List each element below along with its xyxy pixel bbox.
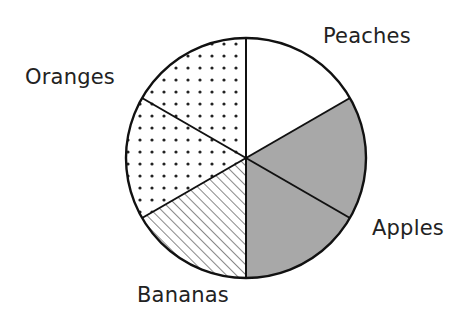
- pie-slices: [126, 38, 366, 278]
- label-oranges: Oranges: [25, 65, 115, 89]
- pie-chart: [0, 0, 472, 322]
- label-peaches: Peaches: [323, 24, 411, 48]
- label-apples: Apples: [372, 216, 444, 240]
- label-bananas: Bananas: [137, 283, 229, 307]
